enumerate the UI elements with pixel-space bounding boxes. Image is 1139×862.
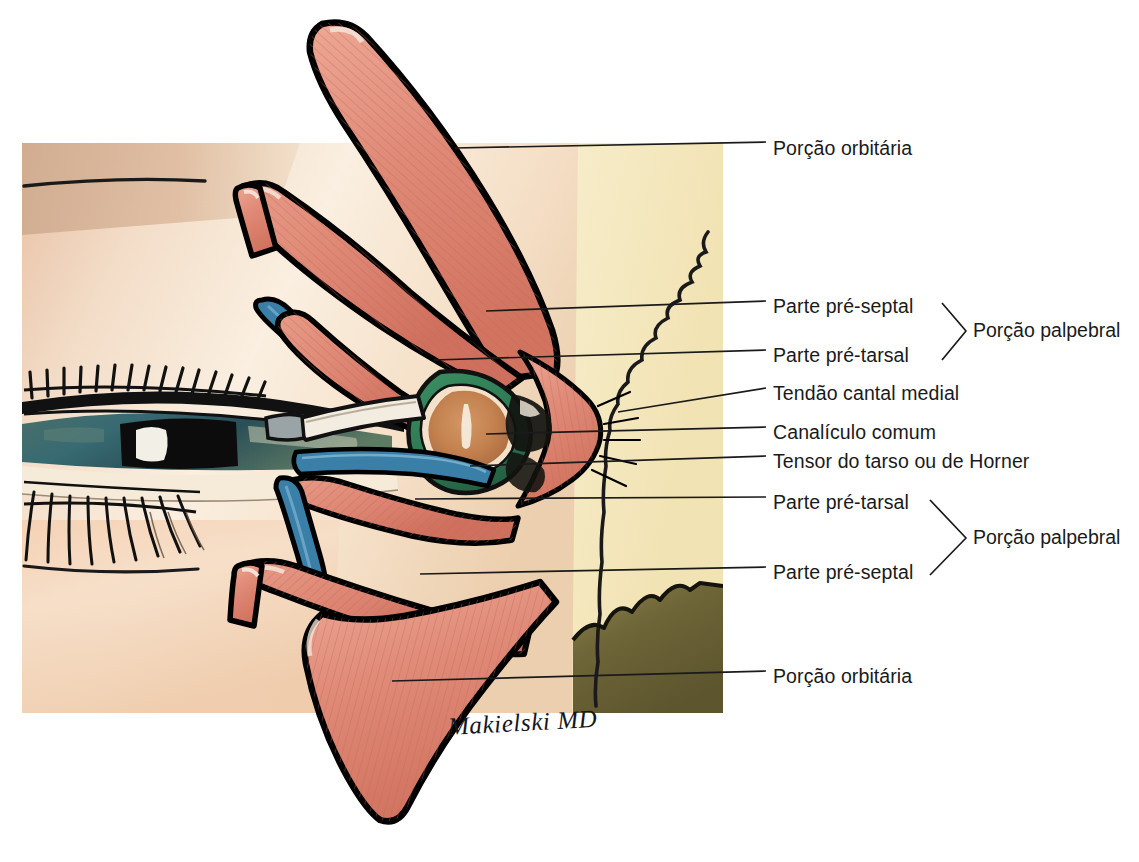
- label-porcao-orbitaria-superior: Porção orbitária: [773, 139, 912, 159]
- group-label-porcao-palpebral-inferior: Porção palpebral: [973, 528, 1120, 548]
- label-parte-pre-septal-inferior: Parte pré-septal: [773, 563, 913, 583]
- label-canaliculo-comum: Canalículo comum: [773, 423, 936, 443]
- muscle-cut-end-lower: [230, 563, 262, 626]
- label-parte-pre-tarsal-inferior: Parte pré-tarsal: [773, 493, 909, 513]
- brace-porcao-palpebral-inferior: [930, 500, 966, 575]
- label-parte-pre-septal-superior: Parte pré-septal: [773, 297, 913, 317]
- label-parte-pre-tarsal-superior: Parte pré-tarsal: [773, 346, 909, 366]
- brace-porcao-palpebral-superior: [942, 303, 966, 360]
- label-porcao-orbitaria-inferior: Porção orbitária: [773, 667, 912, 687]
- label-tendao-cantal-medial: Tendão cantal medial: [773, 384, 959, 404]
- group-label-porcao-palpebral-superior: Porção palpebral: [973, 321, 1120, 341]
- anatomical-figure: Porção orbitária Parte pré-septal Parte …: [0, 0, 1139, 862]
- label-tensor-do-tarso: Tensor do tarso ou de Horner: [773, 452, 1029, 472]
